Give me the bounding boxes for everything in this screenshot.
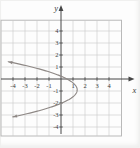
x-tick-label: 4 — [107, 82, 111, 89]
parabola-graph-svg: -4-3-2-112344321-1-2-3-4 y x — [0, 0, 140, 148]
coordinate-plane-figure: -4-3-2-112344321-1-2-3-4 y x — [0, 0, 140, 148]
y-axis-arrow-icon — [59, 5, 64, 11]
x-tick-label: -4 — [10, 82, 16, 89]
y-tick-label: -1 — [53, 87, 58, 94]
y-tick-label: 3 — [55, 39, 58, 46]
y-tick-label: -4 — [53, 123, 59, 130]
x-tick-label: 2 — [83, 82, 86, 89]
y-tick-label: 1 — [55, 63, 58, 70]
y-axis-label: y — [53, 3, 58, 13]
parabola-curve — [8, 61, 77, 118]
y-tick-label: 2 — [55, 51, 58, 58]
x-tick-label: -2 — [34, 82, 39, 89]
x-tick-label: -3 — [22, 82, 27, 89]
x-tick-label: -1 — [46, 82, 51, 89]
x-axis-label: x — [132, 85, 137, 95]
y-tick-label: -3 — [53, 111, 58, 118]
parabola-path — [8, 62, 77, 117]
x-tick-label: 3 — [95, 82, 98, 89]
x-axis-arrow-icon — [129, 77, 135, 82]
